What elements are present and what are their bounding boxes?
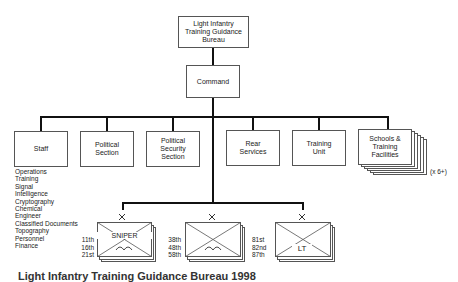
command-to-bus-line xyxy=(212,97,214,203)
department-bus-line xyxy=(40,116,389,118)
staff-functions-list: Operations Training Signal Intelligence … xyxy=(15,168,78,249)
drop-training xyxy=(318,116,320,131)
rear-services-box: Rear Services xyxy=(226,130,280,166)
unit-symbol-icon xyxy=(275,210,341,266)
staff-function-item: Classified Documents xyxy=(15,220,78,227)
political-section-box: Political Section xyxy=(80,131,134,167)
schools-training-facilities-box: Schools & Training Facilities xyxy=(358,129,412,165)
unit-number: 58th xyxy=(163,251,181,259)
staff-function-item: Operations xyxy=(15,168,78,175)
staff-function-item: Personnel xyxy=(15,235,78,242)
unit-3-label: LT xyxy=(292,244,312,253)
unit-1-numbers: 11th 16th 21st xyxy=(76,236,94,259)
unit-symbol-icon xyxy=(185,210,251,266)
training-unit-box: Training Unit xyxy=(292,130,346,166)
staff-function-item: Training xyxy=(15,175,78,182)
staff-function-item: Engineer xyxy=(15,212,78,219)
drop-schools xyxy=(387,116,389,130)
staff-function-item: Signal xyxy=(15,183,78,190)
drop-unit-3 xyxy=(302,202,304,210)
unit-bus-line xyxy=(122,202,303,204)
staff-function-item: Chemical xyxy=(15,205,78,212)
staff-function-item: Finance xyxy=(15,242,78,249)
unit-3-numbers: 81st 82nd 87th xyxy=(252,236,272,259)
drop-rear xyxy=(252,116,254,131)
political-security-section-box: Political Security Section xyxy=(146,131,200,167)
unit-number: 16th xyxy=(76,244,94,252)
drop-staff xyxy=(40,116,42,131)
unit-2-symbol xyxy=(185,210,251,266)
drop-unit-1 xyxy=(122,202,124,210)
unit-1-label: SNIPER xyxy=(97,232,152,239)
root-bureau-box: Light Infantry Training Guidance Bureau xyxy=(178,16,249,48)
root-to-command-line xyxy=(212,47,214,65)
unit-1-symbol: SNIPER xyxy=(97,210,163,266)
drop-polsec xyxy=(172,116,174,131)
schools-multiplier-label: (x 6+) xyxy=(430,168,447,175)
unit-number: 11th xyxy=(76,236,94,244)
unit-number: 38th xyxy=(163,236,181,244)
unit-number: 82nd xyxy=(252,244,272,252)
unit-3-symbol: LT xyxy=(275,210,341,266)
unit-number: 87th xyxy=(252,251,272,259)
unit-number: 81st xyxy=(252,236,272,244)
staff-box: Staff xyxy=(14,131,68,167)
unit-number: 21st xyxy=(76,251,94,259)
staff-function-item: Intelligence xyxy=(15,190,78,197)
staff-function-item: Cryptography xyxy=(15,198,78,205)
unit-2-numbers: 38th 48th 58th xyxy=(163,236,181,259)
staff-function-item: Topography xyxy=(15,227,78,234)
command-box: Command xyxy=(186,65,240,98)
drop-political xyxy=(106,116,108,131)
unit-number: 48th xyxy=(163,244,181,252)
figure-caption: Light Infantry Training Guidance Bureau … xyxy=(18,270,256,282)
